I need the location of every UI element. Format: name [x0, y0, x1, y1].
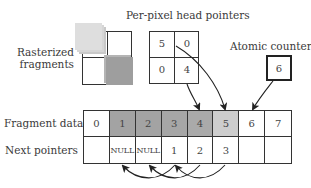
arrow-head-to-fragment-4 — [187, 84, 199, 109]
arrow-counter-to-fragment-6 — [253, 81, 273, 109]
arrows-overlay — [0, 0, 311, 188]
arrow-next-5-to-3 — [176, 165, 225, 178]
arrow-head-to-fragment-5 — [176, 46, 225, 109]
arrow-next-3-to-1 — [123, 165, 175, 178]
arrow-next-4-to-2 — [150, 165, 200, 178]
